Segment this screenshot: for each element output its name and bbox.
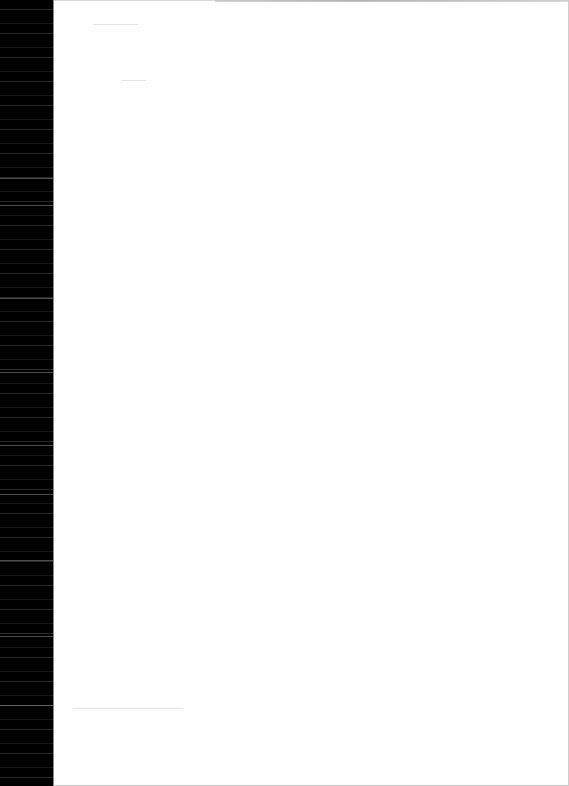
scan-streak: [0, 560, 53, 561]
scan-streak: [0, 205, 53, 206]
scan-streak: [0, 178, 53, 179]
faint-scan-mark: [73, 708, 183, 709]
scan-streak: [0, 494, 53, 495]
scanner-bed-strip: [0, 0, 53, 786]
page-top-edge-shadow: [215, 0, 569, 2]
blank-page: [53, 0, 569, 786]
scan-streak: [0, 445, 53, 446]
faint-scan-mark: [121, 80, 146, 81]
scan-streak: [0, 705, 53, 706]
scan-streak: [0, 298, 53, 299]
scan-streak: [0, 372, 53, 373]
scan-streak: [0, 636, 53, 637]
faint-scan-mark: [93, 24, 138, 25]
